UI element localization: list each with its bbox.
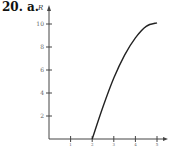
chart: R24681012345 bbox=[0, 0, 169, 146]
y-axis-arrow-icon bbox=[47, 5, 51, 11]
x-tick-label: 4 bbox=[134, 142, 137, 146]
x-tick-label: 5 bbox=[156, 142, 159, 146]
x-tick-label: 2 bbox=[91, 142, 94, 146]
y-tick-label: 4 bbox=[40, 89, 44, 96]
x-tick-label: 1 bbox=[69, 142, 72, 146]
r-curve bbox=[92, 23, 157, 139]
y-tick-label: 2 bbox=[40, 112, 44, 119]
y-tick-label: 8 bbox=[40, 43, 44, 50]
y-axis-label: R bbox=[37, 4, 44, 12]
y-tick-label: 10 bbox=[36, 20, 44, 27]
y-tick-label: 6 bbox=[40, 66, 44, 73]
x-tick-label: 3 bbox=[113, 142, 116, 146]
x-axis-arrow-icon bbox=[163, 137, 168, 141]
